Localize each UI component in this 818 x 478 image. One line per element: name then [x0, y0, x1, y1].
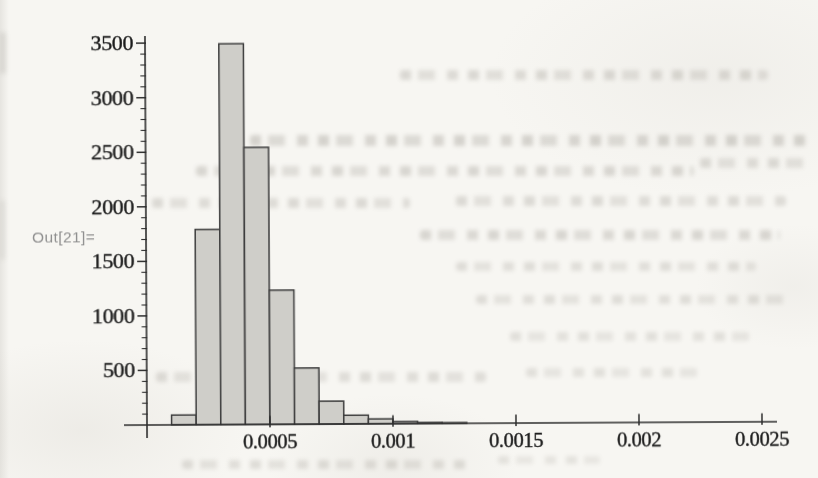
y-axis-line — [145, 36, 147, 438]
x-axis-tick-label: 0.0005 — [243, 430, 297, 452]
mathematica-output-figure: Out[21]= 5001000150020002500300035000.00… — [0, 0, 818, 478]
histogram-bar — [319, 401, 344, 424]
histogram-bar — [269, 290, 294, 424]
histogram-bar — [195, 229, 221, 424]
histogram-bar — [344, 415, 369, 424]
histogram-bar — [172, 415, 197, 425]
histogram-chart: 5001000150020002500300035000.00050.0010.… — [0, 0, 818, 478]
y-axis-tick-label: 2500 — [91, 139, 134, 164]
x-axis-tick-label: 0.002 — [617, 428, 661, 450]
histogram-bar — [244, 147, 270, 424]
output-cell-label: Out[21]= — [32, 228, 95, 246]
y-axis-tick-label: 3000 — [91, 85, 134, 110]
x-axis-tick-label: 0.0025 — [735, 428, 789, 450]
y-axis-tick-label: 1500 — [92, 248, 135, 273]
x-axis-tick-label: 0.0015 — [489, 429, 543, 451]
y-axis-tick-label: 500 — [103, 357, 135, 382]
x-axis-tick-label: 0.001 — [371, 430, 415, 452]
y-axis-tick-label: 3500 — [91, 30, 134, 55]
y-axis-tick-label: 2000 — [91, 194, 134, 219]
histogram-bar — [219, 44, 246, 425]
y-axis-tick-label: 1000 — [92, 303, 135, 328]
scanned-page: Out[21]= 5001000150020002500300035000.00… — [0, 0, 818, 478]
histogram-bar — [294, 368, 319, 424]
